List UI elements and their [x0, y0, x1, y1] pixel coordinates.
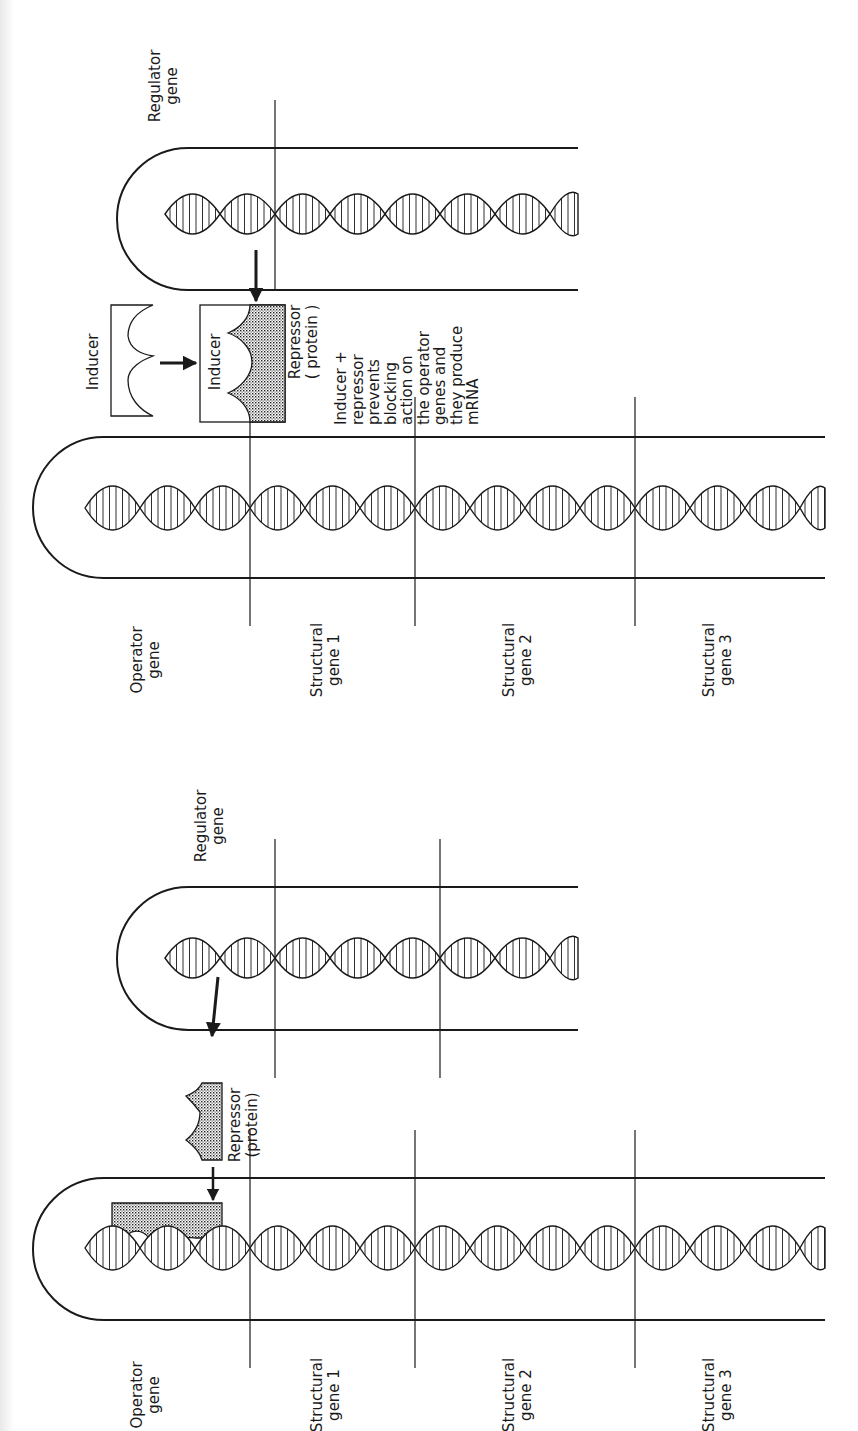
dna-helix-icon — [165, 934, 578, 982]
helix-turn — [580, 482, 635, 535]
helix-turn — [800, 482, 825, 535]
helix-turn — [140, 482, 195, 535]
helix-turn — [330, 190, 385, 238]
free-inducer-icon — [111, 305, 153, 416]
repressor-label-2: ( protein ) — [303, 305, 321, 380]
note-line: genes and — [431, 347, 449, 425]
dna-helix-icon — [85, 482, 825, 535]
helix-turn — [275, 190, 330, 238]
operon-labels: OperatorgeneStructuralgene 1Structuralge… — [128, 1358, 735, 1431]
lac-operon-diagram: Regulator gene Inducer Inducer Repressor… — [0, 0, 858, 1431]
helix-turn — [85, 482, 140, 535]
helix-turn — [440, 934, 495, 982]
operon-segment-label: Structural — [700, 1358, 718, 1431]
note-line: blocking — [382, 362, 400, 425]
helix-turn — [250, 1222, 305, 1275]
helix-turn — [275, 934, 330, 982]
note-line: they produce — [448, 326, 466, 425]
helix-turn — [415, 482, 470, 535]
helix-turn — [525, 482, 580, 535]
regulator-gene-label-2: gene — [209, 807, 227, 845]
helix-turn — [195, 482, 250, 535]
operon-labels: OperatorgeneStructuralgene 1Structuralge… — [128, 623, 735, 697]
repressor-label: Repressor — [226, 1087, 244, 1162]
operon-segment-label: Operator — [128, 626, 146, 694]
repressor-label-2: (protein) — [243, 1092, 261, 1157]
induction-note: Inducer +repressorpreventsblockingaction… — [332, 326, 482, 425]
operon-segment-label-2: gene 3 — [717, 634, 735, 686]
helix-turn — [385, 190, 440, 238]
operon-segment-label: Structural — [500, 1358, 518, 1431]
helix-turn — [690, 482, 745, 535]
helix-turn — [220, 190, 275, 238]
note-line: Inducer + — [332, 351, 350, 425]
helix-turn — [305, 482, 360, 535]
helix-turn — [220, 934, 275, 982]
note-line: repressor — [349, 354, 367, 425]
helix-turn — [360, 1222, 415, 1275]
helix-turn — [550, 190, 578, 238]
helix-turn — [495, 190, 550, 238]
helix-turn — [330, 934, 385, 982]
operon-segment-label: Structural — [308, 1358, 326, 1431]
free-inducer-label: Inducer — [84, 333, 102, 390]
repressor-label: Repressor — [286, 304, 304, 379]
helix-turn — [250, 482, 305, 535]
helix-turn — [440, 190, 495, 238]
note-line: action on — [398, 355, 416, 425]
helix-turn — [745, 482, 800, 535]
helix-turn — [470, 1222, 525, 1275]
operon-segment-label-2: gene — [145, 641, 163, 679]
operon-segment-label: Operator — [128, 1361, 146, 1429]
helix-turn — [385, 934, 440, 982]
bound-inducer-label: Inducer — [206, 333, 224, 390]
helix-turn — [690, 1222, 745, 1275]
operon-segment-label: Structural — [308, 623, 326, 697]
helix-turn — [745, 1222, 800, 1275]
helix-turn — [525, 1222, 580, 1275]
helix-turn — [165, 190, 220, 238]
note-line: mRNA — [464, 378, 482, 425]
operon-segment-label-2: gene 1 — [325, 1369, 343, 1421]
helix-turn — [800, 1222, 825, 1275]
free-repressor-icon — [186, 1083, 222, 1160]
operon-segment-label-2: gene 2 — [517, 634, 535, 686]
operon-segment-label: Structural — [700, 623, 718, 697]
helix-turn — [415, 1222, 470, 1275]
operon-segment-label: Structural — [500, 623, 518, 697]
repression-panel: Regulator gene Repressor (protein) Opera… — [33, 789, 825, 1431]
helix-turn — [165, 934, 220, 982]
helix-turn — [550, 934, 578, 982]
regulator-gene-label: Regulator — [192, 789, 210, 862]
synthesis-arrow-icon — [212, 977, 218, 1036]
helix-turn — [360, 482, 415, 535]
note-line: the operator — [415, 330, 433, 425]
note-line: prevents — [365, 359, 383, 425]
helix-turn — [470, 482, 525, 535]
helix-turn — [635, 1222, 690, 1275]
induction-panel: Regulator gene Inducer Inducer Repressor… — [33, 49, 825, 697]
helix-turn — [635, 482, 690, 535]
dna-helix-icon — [165, 190, 578, 238]
operon-segment-label-2: gene 2 — [517, 1369, 535, 1421]
helix-turn — [580, 1222, 635, 1275]
regulator-gene-label: Regulator — [146, 49, 164, 122]
operon-segment-label-2: gene — [145, 1376, 163, 1414]
operon-segment-label-2: gene 1 — [325, 634, 343, 686]
helix-turn — [495, 934, 550, 982]
operon-segment-label-2: gene 3 — [717, 1369, 735, 1421]
regulator-gene-label-2: gene — [163, 67, 181, 105]
helix-turn — [305, 1222, 360, 1275]
